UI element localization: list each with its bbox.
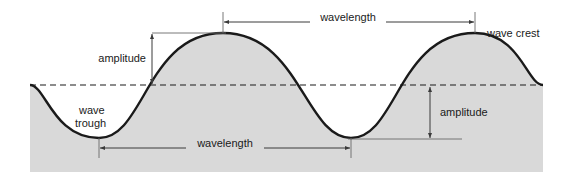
wave-crest-callout: wave crest (486, 27, 540, 39)
wave-trough-label-line1: wave (78, 104, 105, 116)
amplitude-bottom-label: amplitude (440, 106, 488, 118)
wave-trough-callout: wave trough (75, 104, 106, 129)
wave-crest-label: wave crest (486, 27, 540, 39)
wave-anatomy-diagram: wavelength amplitude wave crest wave tro… (0, 0, 564, 179)
wavelength-top-label: wavelength (319, 11, 376, 23)
wavelength-bottom-label: wavelength (196, 137, 253, 149)
amplitude-top-label: amplitude (98, 52, 146, 64)
wave-trough-label-line2: trough (75, 117, 106, 129)
